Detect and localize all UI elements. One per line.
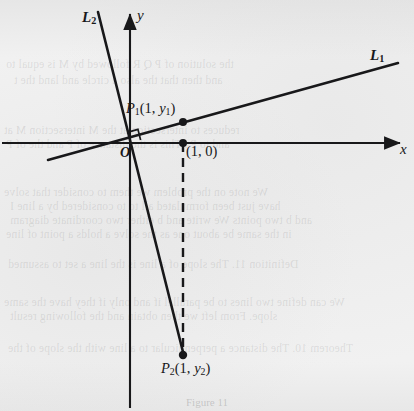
label-point-1-0: (1, 0) — [186, 144, 217, 159]
point-p2 — [179, 351, 187, 359]
figure-caption: Figure 11 — [0, 396, 414, 408]
line-l2 — [98, 12, 184, 356]
label-x-axis: x — [400, 142, 407, 157]
label-y-axis: y — [137, 8, 144, 23]
label-origin: O — [120, 146, 130, 160]
label-point-p1: P1(1, y1) — [126, 101, 175, 117]
label-line-l1: L1 — [370, 48, 384, 64]
line-l1 — [48, 63, 398, 160]
figure-root: the solution of P Q R followed by M is e… — [0, 0, 414, 411]
coordinate-diagram — [0, 0, 414, 411]
point-p1 — [179, 118, 187, 126]
label-line-l2: L2 — [82, 10, 96, 26]
label-point-p2: P2(1, y2) — [161, 361, 210, 377]
